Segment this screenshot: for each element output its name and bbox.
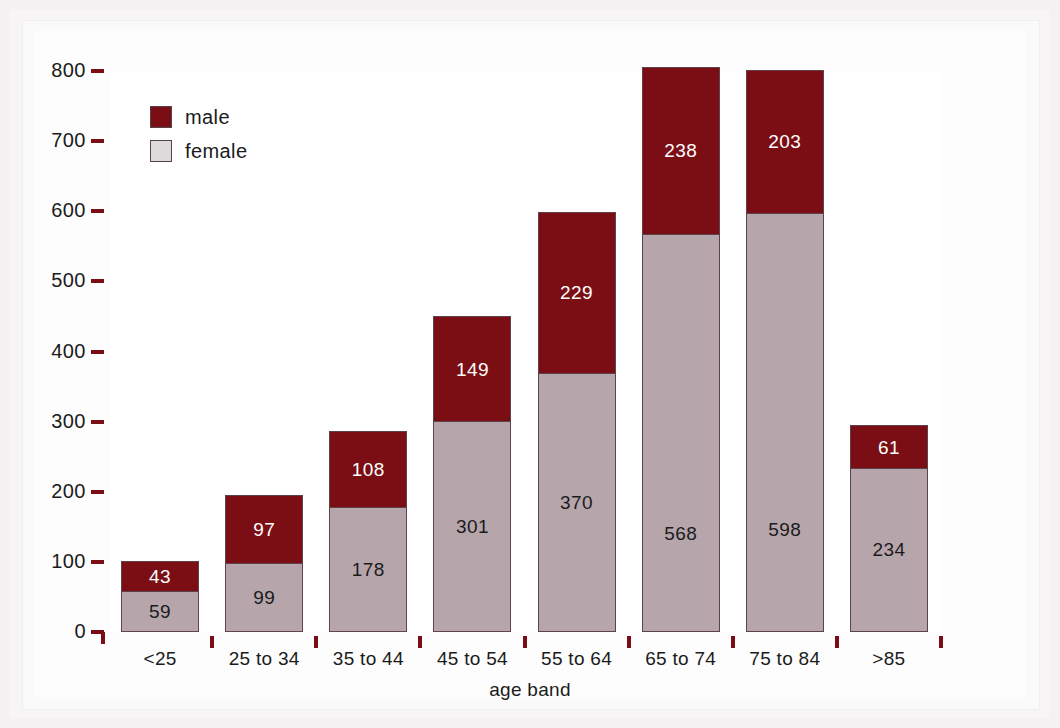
x-axis-category-label: 45 to 54 (420, 648, 524, 670)
y-axis-tick-label: 400 (16, 340, 86, 363)
bar-value-label-male: 108 (352, 460, 385, 479)
y-axis-tick-label: 300 (16, 410, 86, 433)
bar-value-label-male: 149 (456, 360, 489, 379)
bar-segment-female[interactable]: 598 (746, 213, 824, 632)
bar-value-label-male: 61 (878, 438, 900, 457)
y-axis-tick-label: 800 (16, 59, 86, 82)
bar-segment-male[interactable]: 43 (121, 561, 199, 591)
x-axis-category-label: 75 to 84 (733, 648, 837, 670)
x-axis-tick-mark (523, 636, 527, 648)
y-axis-tick-mark (91, 350, 104, 354)
bar-value-label-female: 234 (872, 540, 905, 559)
bar-segment-male[interactable]: 203 (746, 70, 824, 212)
bar-segment-female[interactable]: 99 (225, 563, 303, 632)
bar-value-label-female: 370 (560, 493, 593, 512)
bar-segment-female[interactable]: 370 (538, 373, 616, 632)
x-axis-title: age band (0, 679, 1060, 701)
bar-segment-female[interactable]: 301 (433, 421, 511, 632)
y-axis-tick-mark (91, 420, 104, 424)
x-axis-category-label: 65 to 74 (629, 648, 733, 670)
y-axis-tick-mark (91, 279, 104, 283)
x-axis-tick-mark (314, 636, 318, 648)
bar-value-label-male: 238 (664, 141, 697, 160)
x-axis-tick-mark (939, 636, 943, 648)
x-axis-tick-mark (627, 636, 631, 648)
y-axis-tick-mark (91, 560, 104, 564)
bar-group[interactable]: 4359 (121, 560, 199, 632)
bar-value-label-female: 301 (456, 517, 489, 536)
y-axis-tick-label: 200 (16, 480, 86, 503)
chart-legend: male female (150, 100, 247, 168)
legend-item-male[interactable]: male (150, 100, 247, 134)
x-axis-tick-mark (731, 636, 735, 648)
bar-group[interactable]: 61234 (850, 425, 928, 632)
bar-group[interactable]: 229370 (538, 212, 616, 632)
legend-item-female[interactable]: female (150, 134, 247, 168)
bar-segment-female[interactable]: 568 (642, 234, 720, 632)
bar-value-label-male: 97 (253, 520, 275, 539)
legend-swatch-female-icon (150, 140, 172, 162)
bar-segment-female[interactable]: 59 (121, 591, 199, 632)
bar-segment-male[interactable]: 149 (433, 316, 511, 420)
x-axis-category-label: >85 (837, 648, 941, 670)
chart-figure: 0100200300400500600700800 43599799108178… (0, 0, 1060, 728)
x-axis-tick-mark (210, 636, 214, 648)
bar-segment-female[interactable]: 234 (850, 468, 928, 632)
bar-segment-male[interactable]: 238 (642, 67, 720, 234)
x-axis-category-label: 25 to 34 (212, 648, 316, 670)
legend-swatch-male-icon (150, 106, 172, 128)
y-axis: 0100200300400500600700800 (0, 71, 108, 632)
y-axis-tick-mark (91, 139, 104, 143)
bar-segment-male[interactable]: 229 (538, 212, 616, 373)
bar-segment-male[interactable]: 61 (850, 425, 928, 468)
x-axis-category-label: <25 (108, 648, 212, 670)
bar-group[interactable]: 108178 (329, 431, 407, 632)
bar-value-label-female: 598 (768, 520, 801, 539)
bar-value-label-female: 59 (149, 602, 171, 621)
bar-segment-female[interactable]: 178 (329, 507, 407, 632)
bar-value-label-female: 568 (664, 524, 697, 543)
legend-label-female: female (185, 140, 247, 163)
bar-group[interactable]: 203598 (746, 70, 824, 632)
x-axis-category-label: 35 to 44 (316, 648, 420, 670)
legend-label-male: male (185, 106, 230, 129)
y-axis-tick-label: 600 (16, 199, 86, 222)
y-axis-tick-label: 500 (16, 269, 86, 292)
y-axis-tick-mark (91, 490, 104, 494)
bar-segment-male[interactable]: 97 (225, 495, 303, 563)
bar-group[interactable]: 149301 (433, 316, 511, 632)
y-axis-tick-label: 700 (16, 129, 86, 152)
x-axis-tick-mark (418, 636, 422, 648)
bar-value-label-male: 43 (149, 567, 171, 586)
y-axis-tick-mark (91, 69, 104, 73)
bar-value-label-female: 99 (253, 588, 275, 607)
bar-group[interactable]: 9799 (225, 495, 303, 632)
bar-group[interactable]: 238568 (642, 67, 720, 632)
x-axis-tick-mark (835, 636, 839, 648)
bar-value-label-female: 178 (352, 560, 385, 579)
bar-segment-male[interactable]: 108 (329, 431, 407, 507)
bar-value-label-male: 203 (768, 132, 801, 151)
y-axis-tick-label: 100 (16, 550, 86, 573)
y-axis-tick-mark (91, 209, 104, 213)
y-axis-origin-stub (101, 632, 105, 644)
bar-value-label-male: 229 (560, 283, 593, 302)
x-axis-category-label: 55 to 64 (525, 648, 629, 670)
y-axis-tick-label: 0 (16, 620, 86, 643)
